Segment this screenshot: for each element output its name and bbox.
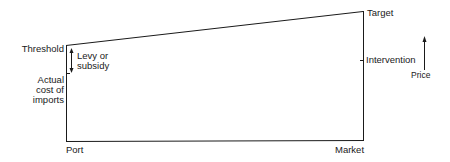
intervention-label: Intervention (366, 55, 416, 65)
threshold-label: Threshold (0, 44, 64, 54)
baseline (66, 141, 364, 142)
levy-arrow-down-head-icon (70, 68, 74, 73)
actual-cost-label-line3: imports (0, 95, 64, 105)
threshold-target-line (66, 12, 363, 46)
levy-label-line2: subsidy (77, 61, 109, 71)
levy-arrow-up-head-icon (70, 48, 74, 53)
price-diagram (0, 0, 450, 162)
port-label: Port (66, 145, 83, 155)
market-label: Market (335, 145, 364, 155)
price-arrow-up-head-icon (423, 36, 427, 42)
price-label: Price (411, 70, 430, 80)
target-label: Target (367, 8, 393, 18)
